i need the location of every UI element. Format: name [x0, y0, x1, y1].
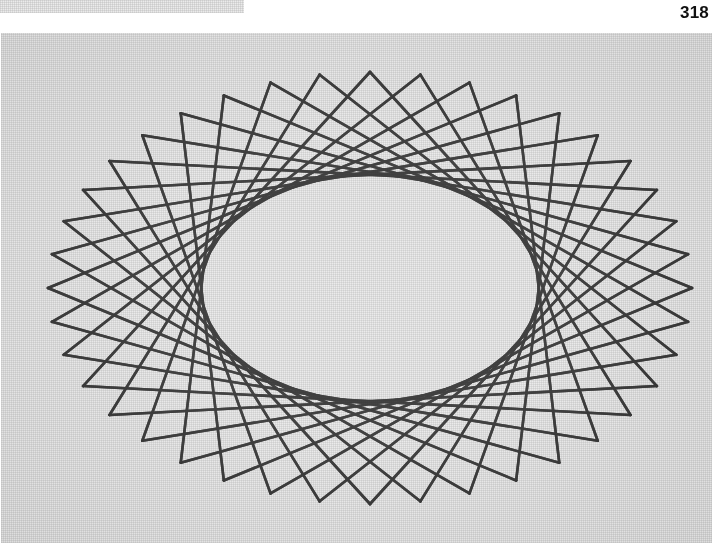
chord-line: [420, 75, 630, 415]
figure-plate: [1, 33, 712, 543]
chord-line: [64, 135, 598, 221]
chord-line: [83, 386, 630, 415]
chord-line: [142, 135, 676, 221]
chord-line: [64, 355, 598, 441]
chord-line: [470, 83, 598, 441]
chord-line: [110, 161, 320, 501]
chord-line: [110, 161, 657, 190]
chord-line: [516, 96, 559, 463]
chord-line: [110, 75, 320, 415]
inner-envelope-ellipse: [269, 231, 471, 345]
chord-line: [142, 355, 676, 441]
chord-line: [181, 322, 688, 463]
scan-artifact-strip: [0, 0, 244, 13]
chord-line: [142, 83, 270, 441]
chord-line: [52, 113, 559, 254]
chord-line: [52, 322, 559, 463]
chord-line: [110, 386, 657, 415]
chord-line: [516, 113, 559, 480]
chord-line: [470, 135, 598, 493]
chord-line: [181, 113, 688, 254]
page-number: 318: [680, 3, 709, 23]
chord-line: [420, 161, 630, 501]
sheet-bottom-margin: [0, 543, 727, 554]
chord-line: [181, 96, 224, 463]
chord-line: [83, 161, 630, 190]
chord-line: [142, 135, 270, 493]
chord-line: [181, 113, 224, 480]
string-art-figure: [1, 33, 712, 543]
